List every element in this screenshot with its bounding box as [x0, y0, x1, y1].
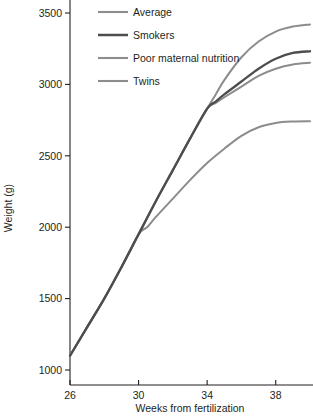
y-axis-title: Weight (g) [2, 184, 14, 232]
y-axis-ticks [65, 13, 70, 370]
legend-item[interactable]: Twins [98, 75, 160, 87]
legend-label: Smokers [133, 29, 174, 41]
y-tick-label: 1500 [39, 292, 63, 304]
legend-item[interactable]: Poor maternal nutrition [98, 52, 239, 64]
x-tick-label: 38 [270, 389, 282, 401]
legend-label: Poor maternal nutrition [133, 52, 239, 64]
x-tick-label: 30 [133, 389, 145, 401]
x-axis-ticks [70, 380, 276, 385]
y-tick-label: 1000 [39, 364, 63, 376]
legend-item[interactable]: Average [98, 6, 172, 18]
x-tick-label: 34 [201, 389, 213, 401]
series-line-smokers [70, 51, 310, 355]
fetal-growth-chart: 100015002000250030003500 26303438 Weight… [0, 0, 313, 416]
series-line-twins [70, 121, 310, 355]
chart-legend: AverageSmokersPoor maternal nutritionTwi… [98, 6, 239, 87]
legend-label: Average [133, 6, 172, 18]
y-axis-tick-labels: 100015002000250030003500 [39, 7, 63, 376]
series-line-average [70, 24, 310, 355]
legend-label: Twins [133, 75, 160, 87]
y-tick-label: 3000 [39, 78, 63, 90]
y-tick-label: 2000 [39, 221, 63, 233]
y-tick-label: 3500 [39, 7, 63, 19]
y-tick-label: 2500 [39, 150, 63, 162]
series-lines [70, 24, 310, 355]
x-axis-title: Weeks from fertilization [136, 402, 245, 414]
x-tick-label: 26 [64, 389, 76, 401]
legend-item[interactable]: Smokers [98, 29, 174, 41]
x-axis-tick-labels: 26303438 [64, 389, 282, 401]
series-line-poor-maternal-nutrition [70, 63, 310, 356]
chart-svg: 100015002000250030003500 26303438 Weight… [0, 0, 313, 416]
